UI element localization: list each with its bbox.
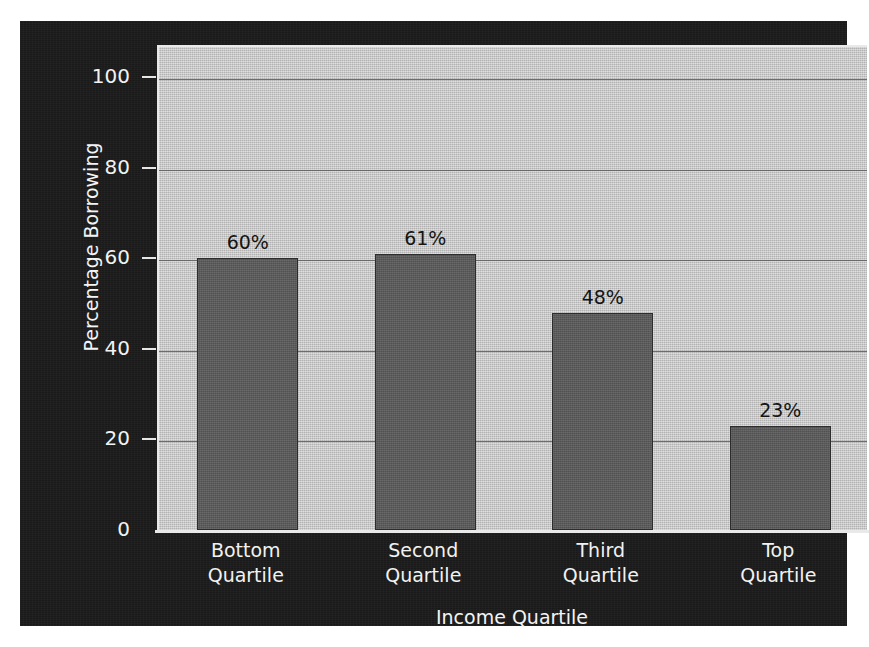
y-tick-label-40: 40 — [70, 336, 130, 360]
x-tick-label-2: SecondQuartile — [333, 538, 513, 589]
y-tick-mark-20 — [142, 438, 156, 440]
y-tick-mark-100 — [142, 76, 156, 78]
y-tick-label-60: 60 — [70, 245, 130, 269]
x-tick-label-line: Second — [333, 538, 513, 563]
x-axis-title: Income Quartile — [157, 606, 867, 628]
x-tick-label-line: Quartile — [156, 563, 336, 588]
bar-2 — [375, 254, 476, 530]
bar-4 — [730, 426, 831, 530]
y-tick-mark-40 — [142, 348, 156, 350]
y-tick-mark-80 — [142, 167, 156, 169]
bar-value-label-4: 23% — [720, 399, 840, 421]
bar-1 — [197, 258, 298, 530]
y-tick-label-80: 80 — [70, 155, 130, 179]
gridline-100 — [159, 79, 867, 80]
x-tick-label-line: Top — [688, 538, 868, 563]
x-tick-label-3: ThirdQuartile — [511, 538, 691, 589]
x-tick-label-line: Quartile — [333, 563, 513, 588]
bar-value-label-1: 60% — [188, 231, 308, 253]
gridline-80 — [159, 170, 867, 171]
x-tick-label-4: TopQuartile — [688, 538, 868, 589]
y-tick-label-100: 100 — [70, 64, 130, 88]
bar-value-label-2: 61% — [365, 227, 485, 249]
x-axis-baseline — [155, 530, 869, 533]
chart-panel: Percentage Borrowing 020406080100 60%61%… — [20, 21, 847, 626]
x-tick-label-line: Quartile — [688, 563, 868, 588]
plot-area: 60%61%48%23% — [157, 45, 867, 532]
y-tick-label-0: 0 — [70, 517, 130, 541]
bar-3 — [552, 313, 653, 530]
x-tick-label-line: Bottom — [156, 538, 336, 563]
x-tick-label-1: BottomQuartile — [156, 538, 336, 589]
x-tick-label-line: Quartile — [511, 563, 691, 588]
bar-value-label-3: 48% — [543, 286, 663, 308]
x-tick-label-line: Third — [511, 538, 691, 563]
y-tick-mark-60 — [142, 257, 156, 259]
y-tick-label-20: 20 — [70, 426, 130, 450]
